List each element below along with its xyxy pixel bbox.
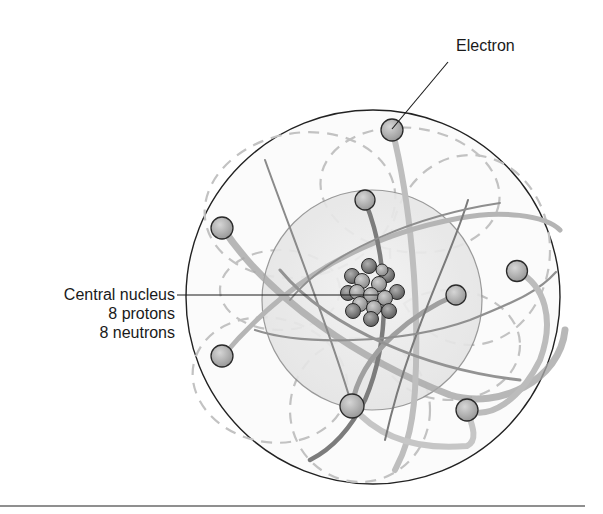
nucleus-label: Central nucleus 8 protons 8 neutrons xyxy=(64,285,175,342)
electron-particle xyxy=(340,394,364,418)
electron-particle xyxy=(456,399,478,421)
electron-particle xyxy=(446,285,466,305)
nucleus-label-title: Central nucleus xyxy=(64,285,175,304)
atom-diagram xyxy=(0,0,603,514)
electron-label: Electron xyxy=(456,36,515,55)
electron-particle xyxy=(507,261,528,282)
electron-particle xyxy=(211,217,233,239)
electron-particle xyxy=(211,345,233,367)
nucleus-label-protons: 8 protons xyxy=(64,304,175,323)
electron-particle xyxy=(355,190,375,210)
electron-particle xyxy=(381,119,403,141)
nucleus-label-neutrons: 8 neutrons xyxy=(64,323,175,342)
